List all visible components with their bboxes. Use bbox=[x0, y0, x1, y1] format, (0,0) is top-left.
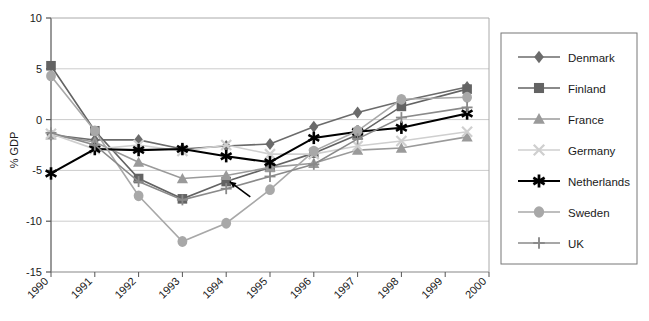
data-point-marker bbox=[178, 236, 188, 247]
data-point-marker bbox=[534, 206, 544, 217]
legend-label: Sweden bbox=[568, 207, 610, 219]
x-tick-label: 1996 bbox=[287, 275, 313, 301]
x-axis-ticks: 1990199119921993199419951996199719981999… bbox=[25, 272, 489, 301]
data-point-marker bbox=[397, 94, 407, 105]
x-tick-label: 1995 bbox=[244, 275, 270, 301]
y-axis-ticks: 1050-5-10-15 bbox=[26, 12, 51, 278]
x-tick-label: 1993 bbox=[156, 275, 182, 301]
data-point-marker bbox=[134, 190, 144, 201]
x-tick-label: 1997 bbox=[331, 275, 357, 301]
data-point-marker bbox=[309, 146, 319, 157]
chart-container: 1050-5-10-15 199019911992199319941995199… bbox=[0, 0, 649, 321]
x-tick-label: 1990 bbox=[25, 275, 51, 301]
data-point-marker bbox=[534, 83, 544, 93]
data-point-marker bbox=[265, 184, 275, 195]
y-tick-label: -5 bbox=[32, 164, 42, 176]
legend-label: Germany bbox=[568, 145, 616, 157]
data-point-marker bbox=[46, 71, 56, 82]
x-tick-label: 1994 bbox=[200, 275, 226, 301]
data-point-marker bbox=[221, 218, 231, 229]
y-tick-label: 0 bbox=[36, 114, 42, 126]
legend-label: Finland bbox=[568, 83, 606, 95]
data-point-marker bbox=[46, 61, 56, 71]
x-tick-label: 2000 bbox=[463, 275, 489, 301]
y-tick-label: 5 bbox=[36, 63, 42, 75]
y-tick-label: -10 bbox=[26, 215, 42, 227]
legend-label: Netherlands bbox=[568, 176, 630, 188]
x-tick-label: 1992 bbox=[112, 275, 138, 301]
data-point-marker bbox=[90, 125, 100, 136]
data-point-marker bbox=[462, 92, 472, 103]
x-tick-label: 1998 bbox=[375, 275, 401, 301]
y-tick-label: 10 bbox=[30, 12, 42, 24]
y-axis-label: % GDP bbox=[8, 132, 20, 169]
legend-label: France bbox=[568, 114, 604, 126]
legend-label: Denmark bbox=[568, 52, 615, 64]
x-tick-label: 1991 bbox=[68, 275, 94, 301]
legend-label: UK bbox=[568, 238, 584, 250]
gdp-line-chart: 1050-5-10-15 199019911992199319941995199… bbox=[0, 0, 649, 321]
x-tick-label: 1999 bbox=[419, 275, 445, 301]
